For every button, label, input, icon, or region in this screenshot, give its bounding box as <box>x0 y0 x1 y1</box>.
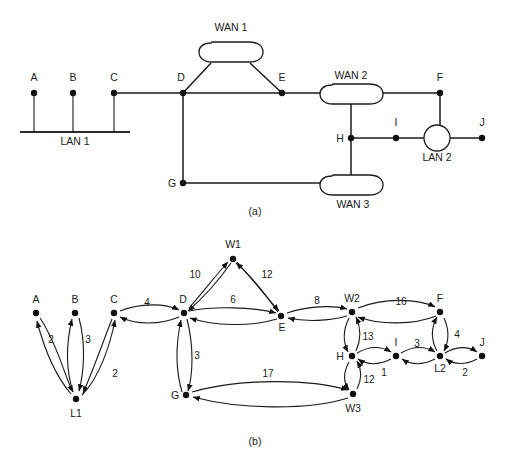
gnode-l1 <box>73 396 79 402</box>
panel-b-graph: A B C D E F G H I J L1 L2 W1 W2 W3 2 3 2… <box>0 0 510 463</box>
weight-b-l1: 3 <box>85 334 91 345</box>
glabel-w2: W2 <box>344 292 360 304</box>
gnode-l2 <box>437 353 443 359</box>
glabel-w1: W1 <box>225 238 241 250</box>
weight-c-d: 4 <box>144 297 150 308</box>
gnode-g <box>183 392 189 398</box>
weight-l2-f: 4 <box>454 329 460 340</box>
edge-i-l2 <box>401 348 435 364</box>
edge-h-i <box>357 348 391 364</box>
caption-b: (b) <box>249 435 262 447</box>
weight-w2-f: 16 <box>395 296 407 307</box>
gnode-b <box>72 310 78 316</box>
glabel-b: B <box>71 293 78 305</box>
weight-g-w3: 17 <box>262 368 274 379</box>
glabel-j: J <box>479 336 484 348</box>
weight-d-w1: 10 <box>189 269 201 280</box>
edge-d-g <box>177 319 192 392</box>
glabel-g: G <box>171 389 179 401</box>
weight-w2-h: 13 <box>362 331 374 342</box>
gnode-w3 <box>350 391 356 397</box>
gnode-i <box>393 353 399 359</box>
gnode-w2 <box>349 309 355 315</box>
weight-h-i: 1 <box>381 367 387 378</box>
glabel-a: A <box>32 293 39 305</box>
edge-g-w3 <box>192 382 348 407</box>
gnode-d <box>181 310 187 316</box>
weight-l2-j: 2 <box>462 367 468 378</box>
glabel-i: I <box>395 336 398 348</box>
weight-a-l1: 2 <box>48 334 54 345</box>
glabel-d: D <box>179 293 187 305</box>
figure-network-topology: A B C D E F G H I J LAN 1 LAN 2 WAN 1 WA… <box>0 0 510 463</box>
gnode-a <box>33 310 39 316</box>
weight-w1-e: 12 <box>261 269 273 280</box>
glabel-h: H <box>336 350 344 362</box>
gnode-c <box>111 310 117 316</box>
weight-h-w3: 12 <box>363 374 375 385</box>
edge-h-w3 <box>345 361 361 390</box>
weight-d-g: 3 <box>194 350 200 361</box>
glabel-e: E <box>278 321 285 333</box>
gnode-f <box>437 309 443 315</box>
gnode-w1 <box>230 256 236 262</box>
gnode-h <box>349 353 355 359</box>
edge-w2-h <box>344 317 359 352</box>
edge-c-l1 <box>82 319 115 395</box>
weight-i-l2: 3 <box>414 338 420 349</box>
glabel-f: F <box>437 292 443 304</box>
edge-l2-f <box>433 317 448 351</box>
edge-d-e <box>189 308 277 325</box>
edge-l2-j <box>445 348 477 364</box>
glabel-l1: L1 <box>70 407 82 419</box>
edge-e-w2 <box>287 307 347 321</box>
weight-e-w2: 8 <box>314 295 320 306</box>
gnode-j <box>479 353 485 359</box>
glabel-w3: W3 <box>345 402 361 414</box>
weight-d-e: 6 <box>230 294 236 305</box>
weight-c-l1: 2 <box>112 368 118 379</box>
glabel-c: C <box>110 293 118 305</box>
gnode-e <box>278 313 284 319</box>
glabel-l2: L2 <box>434 362 446 374</box>
edge-b-l1 <box>68 318 84 392</box>
